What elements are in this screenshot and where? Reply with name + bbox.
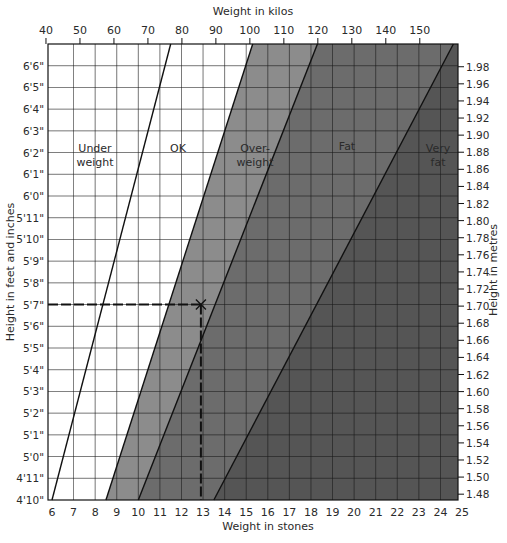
x-tick-label: 9 xyxy=(113,506,120,519)
top-tick-label: 120 xyxy=(307,24,328,37)
y-right-tick-label: 1.56 xyxy=(466,420,490,432)
x-tick-label: 18 xyxy=(304,506,318,519)
x-tick-label: 7 xyxy=(70,506,77,519)
x-tick-label: 24 xyxy=(433,506,447,519)
x-tick-label: 13 xyxy=(196,506,210,519)
y-right-tick-label: 1.92 xyxy=(466,112,489,124)
region-label: Fat xyxy=(339,140,356,153)
y-right-tick-label: 1.78 xyxy=(466,232,489,244)
x-tick-label: 14 xyxy=(218,506,232,519)
region-label: weight xyxy=(76,156,114,169)
x-tick-label: 16 xyxy=(261,506,275,519)
x-tick-label: 15 xyxy=(239,506,253,519)
top-tick-label: 110 xyxy=(273,24,294,37)
y-right-tick-label: 1.50 xyxy=(466,471,489,483)
region-label: fat xyxy=(431,156,447,169)
y-left-tick-label: 5'5" xyxy=(23,342,44,354)
y-right-tick-label: 1.82 xyxy=(466,198,489,210)
y-left-tick-label: 5'8" xyxy=(23,277,44,289)
y-right-tick-label: 1.98 xyxy=(466,61,489,73)
y-left-tick-label: 6'6" xyxy=(23,60,44,72)
y-right-tick-label: 1.62 xyxy=(466,369,489,381)
y-left-tick-label: 6'3" xyxy=(23,125,44,137)
top-tick-label: 70 xyxy=(141,24,155,37)
x-tick-label: 22 xyxy=(390,506,404,519)
y-left-tick-label: 5'9" xyxy=(23,255,44,267)
x-tick-label: 12 xyxy=(174,506,188,519)
y-right-tick-label: 1.48 xyxy=(466,488,489,500)
y-right-tick-label: 1.84 xyxy=(466,180,490,192)
top-axis-title: Weight in kilos xyxy=(213,5,294,18)
y-right-tick-label: 1.60 xyxy=(466,386,489,398)
top-tick-label: 130 xyxy=(341,24,362,37)
y-right-tick-label: 1.70 xyxy=(466,300,489,312)
x-axis-title: Weight in stones xyxy=(222,520,314,533)
y-right-tick-label: 1.66 xyxy=(466,334,490,346)
top-tick-label: 140 xyxy=(375,24,396,37)
chart-regions xyxy=(48,44,458,500)
y-right-tick-label: 1.72 xyxy=(466,283,489,295)
top-tick-label: 60 xyxy=(107,24,121,37)
y-right-tick-label: 1.64 xyxy=(466,351,490,363)
y-left-tick-label: 4'11" xyxy=(16,472,44,484)
y-right-tick-label: 1.54 xyxy=(466,437,490,449)
top-tick-label: 40 xyxy=(39,24,53,37)
x-tick-label: 10 xyxy=(131,506,145,519)
y-right-tick-label: 1.52 xyxy=(466,454,489,466)
y-right-tick-label: 1.90 xyxy=(466,129,489,141)
y-left-tick-label: 4'10" xyxy=(16,494,44,506)
y-right-tick-label: 1.88 xyxy=(466,146,489,158)
y-left-tick-label: 6'4" xyxy=(23,103,44,115)
top-tick-label: 100 xyxy=(239,24,260,37)
bmi-chart: 6789101112131415161718192021222324254050… xyxy=(0,0,507,543)
x-tick-label: 21 xyxy=(369,506,383,519)
top-tick-label: 90 xyxy=(209,24,223,37)
y-left-tick-label: 5'4" xyxy=(23,364,44,376)
y-left-tick-label: 5'2" xyxy=(23,407,44,419)
y-left-tick-label: 5'0" xyxy=(23,451,44,463)
x-tick-label: 11 xyxy=(153,506,167,519)
top-tick-label: 80 xyxy=(175,24,189,37)
y-left-tick-label: 5'10" xyxy=(16,233,44,245)
y-right-tick-label: 1.94 xyxy=(466,95,490,107)
y-axis-left-title: Height in feet and inches xyxy=(4,203,17,342)
region-label: Under xyxy=(78,142,112,155)
x-tick-label: 19 xyxy=(326,506,340,519)
y-left-tick-label: 5'11" xyxy=(16,212,44,224)
x-tick-label: 23 xyxy=(412,506,426,519)
y-right-tick-label: 1.80 xyxy=(466,215,489,227)
region-label: Very xyxy=(426,142,451,155)
x-tick-label: 8 xyxy=(92,506,99,519)
y-left-tick-label: 6'1" xyxy=(23,168,44,180)
x-tick-label: 17 xyxy=(282,506,296,519)
y-right-tick-label: 1.58 xyxy=(466,403,489,415)
x-tick-label: 25 xyxy=(455,506,469,519)
top-tick-label: 150 xyxy=(409,24,430,37)
y-left-tick-label: 5'7" xyxy=(23,299,44,311)
y-left-tick-label: 6'5" xyxy=(23,81,44,93)
x-tick-label: 6 xyxy=(49,506,56,519)
y-left-tick-label: 5'6" xyxy=(23,320,44,332)
y-left-tick-label: 6'0" xyxy=(23,190,44,202)
x-tick-label: 20 xyxy=(347,506,361,519)
region-label: weight xyxy=(236,156,274,169)
y-left-tick-label: 5'3" xyxy=(23,385,44,397)
region-label: Over- xyxy=(240,142,270,155)
top-tick-label: 50 xyxy=(73,24,87,37)
y-right-tick-label: 1.96 xyxy=(466,78,490,90)
y-axis-right-title: Height in metres xyxy=(487,224,500,316)
y-left-tick-label: 5'1" xyxy=(23,429,44,441)
y-left-tick-label: 6'2" xyxy=(23,147,44,159)
y-right-tick-label: 1.68 xyxy=(466,317,489,329)
region-label: OK xyxy=(170,142,187,155)
y-right-tick-label: 1.86 xyxy=(466,163,490,175)
